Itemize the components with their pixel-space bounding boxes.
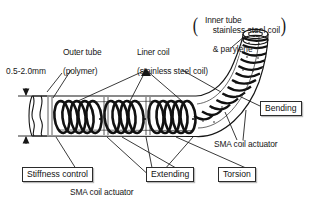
callout-torsion[interactable]: Torsion <box>218 167 256 182</box>
outer-tube-label: Outer tube (polymer) <box>54 38 102 96</box>
inner-tube-line3: & parylene <box>213 44 253 54</box>
paren-open: ( <box>193 16 198 64</box>
callout-extending[interactable]: Extending <box>146 167 194 182</box>
sma-coil-actuator-bottom-label: SMA coil actuator <box>70 188 133 198</box>
liner-coil-label-line2: (stainless steel coil) <box>128 67 208 77</box>
outer-tube-label-line1: Outer tube <box>63 47 102 57</box>
diagram-root: 0.5-2.0mm Outer tube (polymer) Liner coi… <box>0 0 315 212</box>
outer-tube-label-line2: (polymer) <box>54 67 102 77</box>
paren-close: ) <box>281 16 286 64</box>
inner-tube-label-group: ( stainless steel coil & parylene ) <box>192 16 287 64</box>
sma-coil-actuator-right-label: SMA coil actuator <box>214 140 277 150</box>
dimension-label: 0.5-2.0mm <box>6 66 46 76</box>
tube-break-symbol <box>32 96 43 136</box>
callout-bending[interactable]: Bending <box>260 101 302 116</box>
liner-coil-label-line1: Liner coil <box>137 47 170 57</box>
inner-tube-detail: stainless steel coil & parylene <box>199 16 280 64</box>
callout-stiffness-control[interactable]: Stiffness control <box>22 167 93 182</box>
sma-coil-groups <box>48 97 197 135</box>
inner-tube-line2: stainless steel coil <box>213 25 281 35</box>
